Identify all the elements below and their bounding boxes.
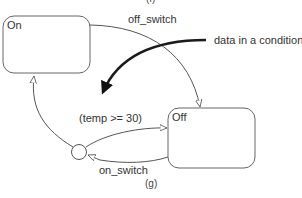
state-on-label: On [7, 19, 22, 31]
transition-on-switch-label: on_switch [99, 164, 148, 176]
annotation-arrow [103, 40, 206, 92]
transition-off-switch [90, 25, 200, 107]
condition-junction [72, 145, 87, 160]
transition-junction-to-on [33, 76, 73, 147]
state-off: Off [168, 108, 255, 168]
top-caption-fragment: (f) [146, 0, 155, 4]
transition-off-switch-label: off_switch [128, 13, 177, 25]
transition-on-switch [88, 155, 168, 162]
figure-caption: (g) [145, 178, 157, 189]
annotation-text: data in a condition [214, 34, 302, 46]
statechart-diagram: (f) On Off off_switch on_switch (temp >=… [0, 0, 302, 198]
state-off-label: Off [172, 111, 187, 123]
state-on: On [3, 16, 90, 73]
condition-label: (temp >= 30) [79, 112, 142, 124]
transition-junction-to-off [86, 128, 167, 147]
